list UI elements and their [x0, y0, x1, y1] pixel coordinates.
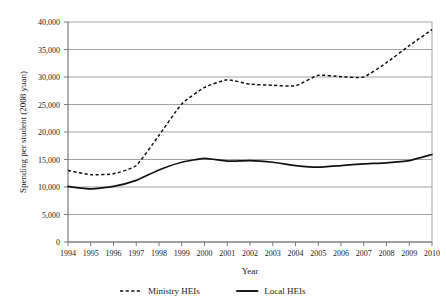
- x-axis-title: Year: [242, 266, 259, 276]
- x-tick-label-2007: 2007: [356, 249, 372, 258]
- y-axis-title: Spending per student (2008 yuan): [18, 71, 28, 193]
- x-tick-label-2006: 2006: [333, 249, 349, 258]
- x-tick-label-1999: 1999: [174, 249, 190, 258]
- y-tick-label-5000: 5,000: [42, 211, 60, 220]
- y-tick-label-10000: 10,000: [38, 183, 60, 192]
- y-tick-label-0: 0: [56, 238, 60, 247]
- x-tick-label-1998: 1998: [151, 249, 167, 258]
- x-tick-label-2003: 2003: [265, 249, 281, 258]
- x-tick-label-2005: 2005: [310, 249, 326, 258]
- x-tick-label-1994: 1994: [60, 249, 76, 258]
- x-tick-label-1997: 1997: [128, 249, 144, 258]
- x-tick-label-2004: 2004: [288, 249, 304, 258]
- legend-label-local-heis: Local HEIs: [264, 286, 306, 296]
- x-tick-label-1996: 1996: [106, 249, 122, 258]
- y-tick-label-20000: 20,000: [38, 128, 60, 137]
- chart-svg: 05,00010,00015,00020,00025,00030,00035,0…: [0, 0, 446, 308]
- x-tick-label-2001: 2001: [219, 249, 235, 258]
- y-tick-label-30000: 30,000: [38, 73, 60, 82]
- y-tick-label-15000: 15,000: [38, 156, 60, 165]
- y-tick-label-35000: 35,000: [38, 46, 60, 55]
- y-tick-labels: 05,00010,00015,00020,00025,00030,00035,0…: [38, 18, 60, 247]
- x-tick-label-2000: 2000: [197, 249, 213, 258]
- chart-figure: 05,00010,00015,00020,00025,00030,00035,0…: [0, 0, 446, 308]
- x-tick-labels: 1994199519961997199819992000200120022003…: [60, 249, 440, 258]
- x-tick-label-2002: 2002: [242, 249, 258, 258]
- x-tick-label-2010: 2010: [424, 249, 440, 258]
- x-tick-label-2009: 2009: [401, 249, 417, 258]
- x-tick-label-2008: 2008: [379, 249, 395, 258]
- chart-background: [0, 0, 446, 308]
- x-tick-label-1995: 1995: [83, 249, 99, 258]
- y-tick-label-40000: 40,000: [38, 18, 60, 27]
- y-tick-label-25000: 25,000: [38, 101, 60, 110]
- legend-label-ministry-heis: Ministry HEIs: [148, 286, 200, 296]
- line-chart: 05,00010,00015,00020,00025,00030,00035,0…: [0, 0, 446, 308]
